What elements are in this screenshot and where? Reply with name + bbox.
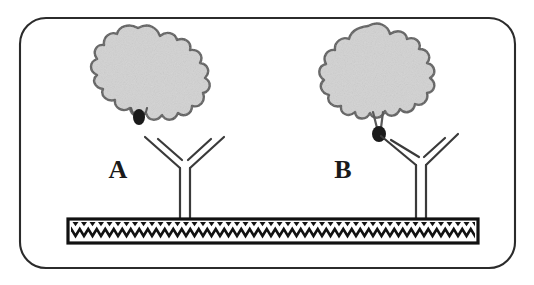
antibody-antigen-diagram: A B	[0, 0, 534, 285]
epitope-dot	[133, 109, 145, 125]
panel-label-b: B	[334, 155, 351, 184]
solid-phase-plate	[68, 219, 478, 243]
plate-zigzag-fill	[68, 219, 478, 243]
panel-label-a: A	[109, 155, 128, 184]
figure-container: A B	[0, 0, 534, 285]
